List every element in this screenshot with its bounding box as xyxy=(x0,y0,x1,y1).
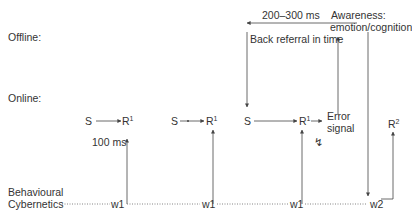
response-3: R1 xyxy=(299,115,311,127)
response-2nd: R2 xyxy=(388,118,400,130)
latency-label: 100 ms xyxy=(92,136,126,148)
error-signal-label-2: signal xyxy=(327,122,354,134)
emotion-cognition-label: emotion/cognition xyxy=(330,21,412,33)
w1-label-2: w1 xyxy=(202,198,215,210)
lightning-icon: ↯ xyxy=(314,136,323,148)
offline-label: Offline: xyxy=(8,31,41,43)
online-label: Online: xyxy=(8,92,41,104)
w1-label-3: w1 xyxy=(290,198,303,210)
response-2: R1 xyxy=(206,115,218,127)
w2-label: w2 xyxy=(370,198,383,210)
awareness-label: Awareness: xyxy=(331,9,386,21)
stimulus-3: S xyxy=(244,115,251,127)
cybernetics-label: Cybernetics xyxy=(8,198,63,210)
stimulus-1: S xyxy=(85,115,92,127)
behavioural-label: Behavioural xyxy=(8,186,63,198)
w1-label-1: w1 xyxy=(111,198,124,210)
error-signal-label-1: Error xyxy=(327,110,350,122)
timing-label: 200–300 ms xyxy=(262,9,320,21)
response-1: R1 xyxy=(122,115,134,127)
stimulus-2: S xyxy=(171,115,178,127)
back-referral-label: Back referral in time xyxy=(250,33,343,45)
